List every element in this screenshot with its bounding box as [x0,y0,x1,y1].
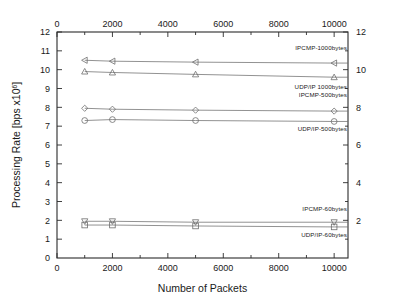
y-axis-left-tick-label: 1 [45,234,50,244]
series-label: UDP/IP-500bytes [298,125,347,132]
top-axis-tick-label: 6000 [213,19,233,29]
y-axis-right-tick-label: 2 [356,216,361,226]
y-axis-left-tick-label: 5 [45,159,50,169]
y-axis-right-tick-label: 6 [356,140,361,150]
series-label: IPCMP-60bytes [302,205,347,212]
y-axis-left-tick-label: 6 [45,140,50,150]
x-axis-tick-label: 6000 [213,263,233,273]
series-line [85,72,334,78]
series-label: UDP/IP 1000bytes [295,83,347,90]
series-line [85,60,334,63]
top-axis-tick-label: 0 [54,19,59,29]
plot-frame [57,32,348,258]
y-axis-right-tick-label: 8 [356,103,361,113]
processing-rate-line-chart: 0020002000400040006000600080008000100001… [0,0,401,302]
y-axis-left-tick-label: 4 [45,178,50,188]
series-line [85,225,334,227]
y-axis-right-tick-label: 4 [356,178,361,188]
y-axis-left-tick-label: 7 [45,121,50,131]
top-axis-tick-label: 2000 [102,19,122,29]
y-axis-left-tick-label: 8 [45,103,50,113]
series-marker [82,68,88,74]
top-axis-tick-label: 4000 [158,19,178,29]
series-label: UDP/IP-60bytes [301,231,347,238]
y-axis-left-tick-label: 3 [45,197,50,207]
x-axis-tick-label: 8000 [269,263,289,273]
x-axis-title: Number of Packets [158,282,247,294]
top-axis-tick-label: 10000 [322,19,347,29]
x-axis-tick-label: 2000 [102,263,122,273]
series-line [85,120,334,122]
y-axis-right-tick-label: 10 [356,65,366,75]
x-axis-tick-label: 10000 [322,263,347,273]
y-axis-left-tick-label: 11 [41,46,50,56]
x-axis-tick-label: 0 [54,263,59,273]
series-line [85,221,334,222]
x-axis-tick-label: 4000 [158,263,178,273]
y-axis-right-tick-label: 12 [356,27,366,37]
y-axis-left-tick-label: 10 [40,65,50,75]
top-axis-tick-label: 8000 [269,19,289,29]
series-line [85,108,334,111]
y-axis-left-tick-label: 2 [45,216,50,226]
series-label: IPCMP-500bytes [299,91,347,98]
y-axis-left-tick-label: 12 [40,27,50,37]
y-axis-left-tick-label: 9 [45,84,50,94]
chart-figure: 0020002000400040006000600080008000100001… [0,0,401,302]
y-axis-left-zero-label: 0 [45,253,50,263]
series-label: IPCMP-1000bytes [295,44,347,51]
y-axis-title: Processing Rate [bps x106] [10,82,22,208]
